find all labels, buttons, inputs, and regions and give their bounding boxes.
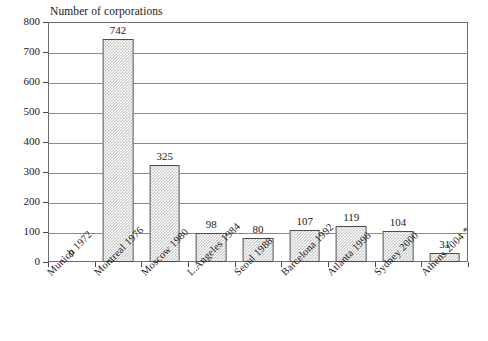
y-tick-label: 300	[8, 165, 40, 177]
y-tick-label: 600	[8, 75, 40, 87]
bar-value-label: 104	[390, 217, 407, 228]
bar-chart: Number of corporations 80070060050040030…	[0, 0, 488, 341]
y-tick-label: 800	[8, 15, 40, 27]
bar-slot: 325	[141, 22, 188, 262]
bar-slot: 31	[421, 22, 468, 262]
bar-value-label: 742	[110, 25, 127, 36]
y-tick-label: 100	[8, 225, 40, 237]
bar-value-label: 80	[252, 224, 263, 235]
bar-slot: 119	[328, 22, 375, 262]
bar-value-label: 325	[156, 151, 173, 162]
y-tick-label: 400	[8, 135, 40, 147]
bar-slot: 80	[235, 22, 282, 262]
y-tick-label: 200	[8, 195, 40, 207]
bar-slot: 104	[375, 22, 422, 262]
bar-value-label: 107	[296, 216, 313, 227]
bar	[103, 39, 134, 262]
y-tick-label: 500	[8, 105, 40, 117]
bar-value-label: 119	[343, 212, 359, 223]
bar-value-label: 98	[206, 219, 217, 230]
bar-slot: 107	[281, 22, 328, 262]
bar-slot: 0	[48, 22, 95, 262]
y-axis-title: Number of corporations	[50, 5, 163, 17]
x-axis-labels: Munich 1972Montreal 1976Moscow 1980L.Ang…	[0, 262, 488, 341]
y-tick-label: 700	[8, 45, 40, 57]
bars-layer: 0742325988010711910431	[48, 22, 468, 262]
